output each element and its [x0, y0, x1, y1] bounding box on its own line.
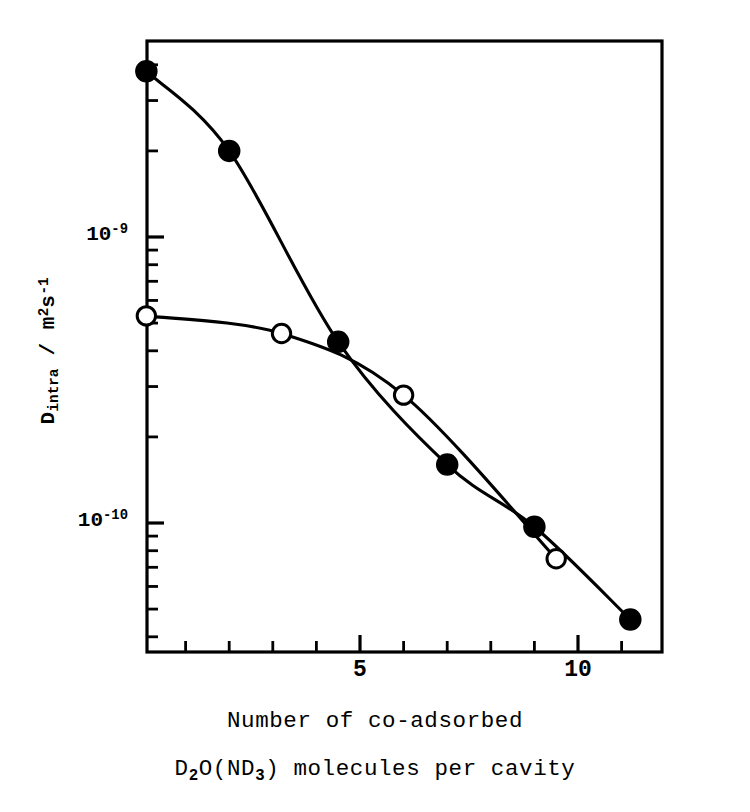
caption-line-2: D2O(ND3) molecules per cavity [0, 745, 750, 800]
markers-open-circles [137, 307, 565, 568]
y-tick-exponent: -9 [111, 221, 128, 237]
x-tick-label-5: 5 [336, 657, 384, 683]
y-tick-exponent: -10 [103, 507, 128, 523]
y-tick-label-1e-10: 10-10 [18, 507, 128, 532]
data-point-open [137, 307, 155, 325]
caption-line-2-sub-1: 2 [189, 767, 199, 785]
axes-frame [147, 41, 662, 652]
data-point-filled [437, 454, 458, 475]
data-point-filled [136, 61, 157, 82]
data-point-open [547, 550, 565, 568]
curve-open-circles [146, 316, 556, 559]
data-point-open [394, 386, 412, 404]
data-point-open [272, 324, 290, 342]
y-tick-mantissa: 10 [86, 223, 111, 246]
figure-root: Dintra / m2s-1 10-9 10-10 5 10 Number of… [0, 0, 750, 812]
x-tick-label-10: 10 [552, 657, 604, 683]
axes-box [147, 41, 662, 652]
x-axis-ticks [186, 635, 622, 652]
y-tick-mantissa: 10 [78, 509, 103, 532]
data-point-filled [620, 609, 641, 630]
data-point-filled [328, 331, 349, 352]
data-point-filled [524, 516, 545, 537]
y-axis-ticks [147, 65, 164, 637]
caption-line-2-part-2: O(ND [199, 756, 255, 782]
markers-filled-circles [136, 61, 641, 630]
caption-line-2-part-3: ) molecules per cavity [265, 756, 575, 782]
caption-line-1: Number of co-adsorbed [0, 697, 750, 745]
x-axis-caption: Number of co-adsorbed D2O(ND3) molecules… [0, 697, 750, 800]
caption-line-2-sub-2: 3 [255, 767, 265, 785]
plot-canvas [0, 0, 750, 812]
caption-line-2-part-1: D [175, 756, 189, 782]
data-point-filled [219, 140, 240, 161]
y-tick-label-1e-9: 10-9 [28, 221, 128, 246]
